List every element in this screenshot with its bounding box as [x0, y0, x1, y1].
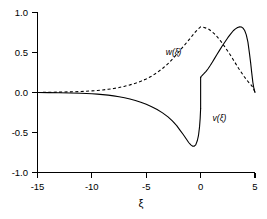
curve-v-seg1	[201, 27, 255, 93]
x-tick-label-4: 5	[252, 181, 257, 192]
x-tick-label-3: 0	[198, 181, 203, 192]
x-tick-label-1: -10	[85, 181, 99, 192]
y-tick-label-1: 0.5	[15, 47, 28, 58]
curve-group	[38, 27, 256, 146]
chart-figure: 1.0 0.5 0.0 -0.5 -1.0 -15 -10 -5 0 5 ξ w…	[0, 0, 267, 219]
curve-label-v: v(ξ)	[213, 113, 227, 123]
x-axis-title: ξ	[139, 197, 144, 209]
curve-label-w: w(ξ)	[166, 47, 182, 57]
chart-plot-area: 1.0 0.5 0.0 -0.5 -1.0 -15 -10 -5 0 5 ξ w…	[0, 0, 267, 219]
curve-v-seg0	[38, 93, 201, 147]
y-tick-label-2: 0.0	[15, 87, 28, 98]
x-tick-label-2: -5	[142, 181, 150, 192]
y-tick-label-3: -0.5	[12, 127, 28, 138]
y-tick-label-0: 1.0	[15, 7, 28, 18]
y-tick-label-4: -1.0	[12, 167, 28, 178]
x-tick-label-0: -15	[31, 181, 45, 192]
curve-w	[38, 27, 256, 93]
